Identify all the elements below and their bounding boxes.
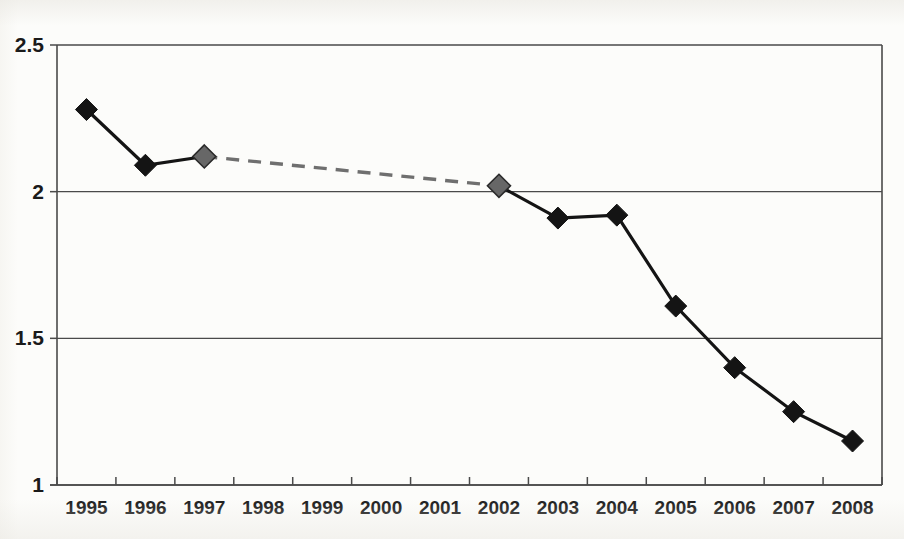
- x-axis-label-1995: 1995: [65, 497, 108, 518]
- y-axis-label-2.5: 2.5: [15, 33, 45, 56]
- x-tick-marks: [57, 477, 882, 485]
- gridlines: [57, 45, 882, 485]
- x-axis-label-2005: 2005: [655, 497, 698, 518]
- x-axis-label-2003: 2003: [537, 497, 579, 518]
- line-segment-interpolated-gap: [204, 156, 499, 185]
- x-axis-label-2002: 2002: [478, 497, 520, 518]
- line-chart: 11.522.5 1995199619971998199920002001200…: [0, 0, 904, 539]
- data-point-2004: [606, 204, 628, 226]
- data-point-1997: [193, 145, 216, 168]
- data-point-2008: [842, 430, 864, 452]
- x-axis-label-2000: 2000: [360, 497, 402, 518]
- x-tick-labels: 1995199619971998199920002001200220032004…: [65, 497, 873, 518]
- y-tick-labels: 11.522.5: [15, 33, 45, 496]
- data-point-markers: [75, 99, 863, 452]
- x-axis-label-1996: 1996: [124, 497, 166, 518]
- chart-container: 11.522.5 1995199619971998199920002001200…: [0, 0, 904, 539]
- x-axis-label-1997: 1997: [183, 497, 225, 518]
- x-axis-label-1999: 1999: [301, 497, 343, 518]
- data-point-2003: [547, 207, 569, 229]
- y-axis-label-2: 2: [32, 180, 44, 203]
- data-point-2002: [487, 174, 510, 197]
- x-axis-label-2004: 2004: [596, 497, 639, 518]
- x-axis-label-2001: 2001: [419, 497, 462, 518]
- y-axis-label-1: 1: [32, 473, 44, 496]
- x-axis-label-2008: 2008: [831, 497, 873, 518]
- x-axis-label-1998: 1998: [242, 497, 284, 518]
- y-axis-label-1.5: 1.5: [15, 326, 45, 349]
- y-axis: [50, 45, 57, 485]
- x-axis-label-2006: 2006: [714, 497, 756, 518]
- x-axis-label-2007: 2007: [772, 497, 814, 518]
